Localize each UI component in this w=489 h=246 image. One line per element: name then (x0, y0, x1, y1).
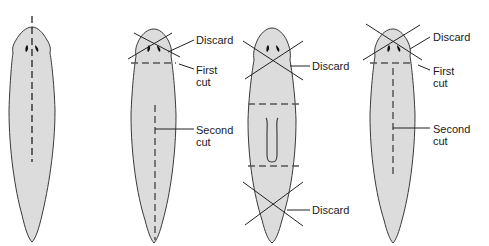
planarian-diagram: Discard First cut Second cut Discard Dis… (0, 0, 489, 246)
planarian-2-first-cut-label-line1: First (196, 64, 217, 76)
planarian-4-first-cut-label-line1: First (433, 65, 454, 77)
planarian-1 (9, 16, 55, 242)
planarian-4-discard-label: Discard (433, 31, 470, 43)
planarian-3: Discard Discard (243, 28, 349, 243)
planarian-3-bottom-discard-label: Discard (312, 204, 349, 216)
planarian-3-top-discard-label: Discard (312, 60, 349, 72)
planarian-2-first-cut-label-line2: cut (196, 76, 211, 88)
planarian-4-second-cut-label-line1: Second (433, 123, 470, 135)
planarian-4-second-cut-label-line2: cut (433, 135, 448, 147)
planarian-2-body (131, 29, 176, 243)
planarian-1-body (9, 27, 55, 242)
planarian-2-discard-label: Discard (196, 34, 233, 46)
planarian-4-discard-leader (410, 37, 430, 49)
planarian-4-first-cut-leader (418, 65, 430, 70)
planarian-2-first-cut-leader (179, 64, 194, 69)
planarian-2: Discard First cut Second cut (128, 29, 233, 243)
planarian-4: Discard First cut Second cut (363, 24, 470, 243)
planarian-2-second-cut-label-line1: Second (196, 124, 233, 136)
planarian-2-second-cut-label-line2: cut (196, 136, 211, 148)
planarian-4-first-cut-label-line2: cut (433, 77, 448, 89)
planarian-2-discard-leader (168, 40, 194, 52)
